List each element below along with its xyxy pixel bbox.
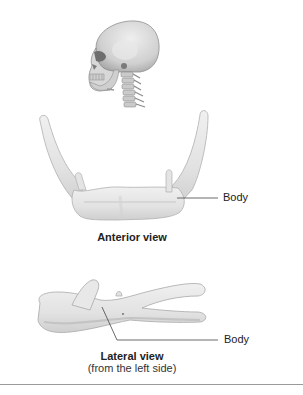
bottom-divider <box>0 384 303 385</box>
lateral-view-subcaption: (from the left side) <box>62 362 202 374</box>
anterior-body-label: Body <box>223 191 248 203</box>
illustration-layer <box>0 0 303 395</box>
hyoid-figure: Body Anterior view Body Lateral view (fr… <box>0 0 303 395</box>
lateral-body-label: Body <box>224 333 249 345</box>
skull-illustration <box>89 21 159 107</box>
hyoid-anterior-illustration <box>40 111 208 220</box>
anterior-view-caption: Anterior view <box>82 231 182 243</box>
hyoid-lateral-illustration <box>38 280 206 333</box>
lateral-view-caption: Lateral view <box>72 350 192 362</box>
